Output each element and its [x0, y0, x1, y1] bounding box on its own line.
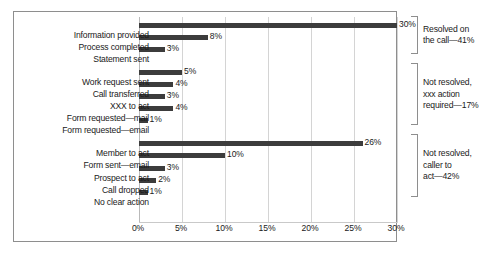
- x-tick-label: 25%: [345, 222, 362, 234]
- bar-row: 2%: [139, 175, 397, 186]
- bar-value-label: 1%: [150, 114, 162, 125]
- gridline-30: [397, 17, 398, 223]
- category-label: Form requested—mail: [27, 113, 149, 124]
- group-annotation-line: act—42%: [423, 171, 491, 183]
- bar-row: 10%: [139, 150, 397, 161]
- group-annotation-line: xxx action: [423, 89, 491, 101]
- group-bracket: [411, 134, 418, 196]
- bar-value-label: 8%: [210, 31, 222, 42]
- bar-row: 4%: [139, 103, 397, 114]
- category-label: Statement sent: [27, 54, 149, 65]
- bar-value-label: 5%: [184, 66, 196, 77]
- group-annotation: Not resolved,caller toact—42%: [423, 148, 491, 183]
- bar-row: 3%: [139, 44, 397, 55]
- bar-row: 4%: [139, 79, 397, 90]
- x-axis-tick-labels: 0%5%10%15%20%25%30%: [138, 222, 396, 236]
- bar: [139, 141, 363, 146]
- group-bracket: [411, 63, 418, 125]
- category-label-column: Information providedProcess completedSta…: [17, 28, 149, 234]
- category-label: XXX to act: [27, 101, 149, 112]
- group-annotation-line: Resolved on: [423, 24, 491, 36]
- bar-value-label: 3%: [167, 162, 179, 173]
- category-label: Call transferred: [27, 89, 149, 100]
- bar-value-label: 4%: [175, 102, 187, 113]
- category-label: Information provided: [27, 30, 149, 41]
- x-tick-label: 5%: [175, 222, 187, 234]
- group-annotation-line: Not resolved,: [423, 77, 491, 89]
- category-label: Call dropped: [27, 185, 149, 196]
- group-annotation-line: caller to: [423, 160, 491, 172]
- category-label: Prospect to act: [27, 173, 149, 184]
- category-label: Process completed: [27, 42, 149, 53]
- bar-row: 26%: [139, 138, 397, 149]
- bar-row: 30%: [139, 20, 397, 31]
- x-tick-label: 20%: [302, 222, 319, 234]
- x-tick-label: 0%: [132, 222, 144, 234]
- bar-row: 3%: [139, 91, 397, 102]
- chart-frame: 30%8%3%5%4%3%4%1%26%10%3%2%1% Informatio…: [13, 11, 397, 242]
- bar-row: 1%: [139, 115, 397, 126]
- chart-canvas: 30%8%3%5%4%3%4%1%26%10%3%2%1% Informatio…: [0, 0, 493, 260]
- group-annotation-line: required—17%: [423, 100, 491, 112]
- plot-area: 30%8%3%5%4%3%4%1%26%10%3%2%1%: [139, 17, 397, 223]
- bar-value-label: 4%: [175, 78, 187, 89]
- bar: [139, 35, 208, 40]
- group-annotation: Not resolved,xxx actionrequired—17%: [423, 77, 491, 112]
- category-label: Work request sent: [27, 77, 149, 88]
- category-label: Member to act: [27, 148, 149, 159]
- group-annotation-line: the call—41%: [423, 35, 491, 47]
- bar-row: 5%: [139, 67, 397, 78]
- bar-value-label: 3%: [167, 43, 179, 54]
- group-annotation: Resolved onthe call—41%: [423, 24, 491, 47]
- bar-value-label: 10%: [227, 149, 244, 160]
- x-tick-label: 10%: [216, 222, 233, 234]
- bar-value-label: 2%: [158, 174, 170, 185]
- x-tick-label: 30%: [388, 222, 405, 234]
- category-label: Form sent—email: [27, 160, 149, 171]
- bar-row: 3%: [139, 163, 397, 174]
- bar-value-label: 26%: [365, 137, 382, 148]
- bar-row: 8%: [139, 32, 397, 43]
- bar-row: 1%: [139, 187, 397, 198]
- group-bracket: [411, 16, 418, 54]
- x-tick-label: 15%: [259, 222, 276, 234]
- group-annotation-line: Not resolved,: [423, 148, 491, 160]
- bar-value-label: 3%: [167, 90, 179, 101]
- bar-value-label: 1%: [150, 186, 162, 197]
- category-label: No clear action: [27, 197, 149, 208]
- bar: [139, 23, 397, 28]
- category-label: Form requested—email: [27, 125, 149, 136]
- bar: [139, 153, 225, 158]
